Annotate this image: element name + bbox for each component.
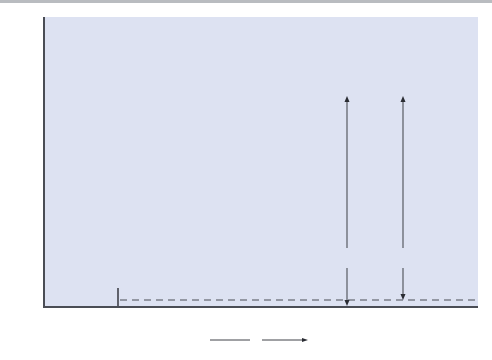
morse-potential-diagram (0, 0, 492, 360)
x-axis-arrow (210, 338, 308, 342)
d0-label-bg (392, 250, 416, 266)
de-label-bg (336, 250, 360, 266)
